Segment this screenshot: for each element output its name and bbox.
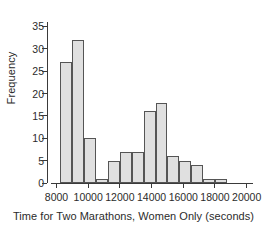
y-axis-tick-label: 15 bbox=[22, 111, 44, 121]
y-axis-tick-label: 35 bbox=[22, 21, 44, 31]
x-axis-tick bbox=[119, 183, 120, 188]
histogram-bar bbox=[60, 62, 72, 183]
y-axis-tick bbox=[42, 138, 47, 139]
histogram-bar bbox=[120, 152, 132, 183]
y-axis-tick bbox=[42, 93, 47, 94]
x-axis-tick bbox=[56, 183, 57, 188]
y-axis-tick bbox=[42, 160, 47, 161]
histogram-bar bbox=[132, 152, 144, 183]
histogram-bar bbox=[156, 103, 168, 184]
histogram-figure: Frequency 05101520253035 800010000120001… bbox=[0, 0, 267, 230]
y-axis-tick-label: 10 bbox=[22, 133, 44, 143]
histogram-bar bbox=[191, 165, 203, 183]
y-axis-tick bbox=[42, 48, 47, 49]
x-axis-tick bbox=[246, 183, 247, 188]
y-axis-tick bbox=[42, 26, 47, 27]
histogram-bar bbox=[96, 179, 108, 183]
histogram-bar bbox=[84, 138, 96, 183]
y-axis-tick-label: 25 bbox=[22, 66, 44, 76]
y-axis-tick-label: 30 bbox=[22, 44, 44, 54]
y-axis-tick bbox=[42, 115, 47, 116]
x-axis-tick-label: 20000 bbox=[225, 191, 267, 203]
x-axis-tick bbox=[183, 183, 184, 188]
histogram-bar bbox=[179, 161, 191, 183]
y-axis-tick-label: 5 bbox=[22, 156, 44, 166]
x-axis-tick bbox=[88, 183, 89, 188]
x-axis-tick bbox=[214, 183, 215, 188]
y-axis-tick bbox=[42, 183, 47, 184]
y-axis-tick-label: 20 bbox=[22, 89, 44, 99]
histogram-bar bbox=[108, 161, 120, 183]
histogram-bar bbox=[203, 179, 215, 183]
histogram-bar bbox=[72, 40, 84, 183]
x-axis-tick bbox=[151, 183, 152, 188]
histogram-bar bbox=[144, 111, 156, 183]
y-axis-tick bbox=[42, 71, 47, 72]
x-axis-label: Time for Two Marathons, Women Only (seco… bbox=[0, 210, 267, 222]
y-axis-line bbox=[47, 22, 48, 183]
histogram-bar bbox=[215, 179, 227, 183]
y-axis-tick-label: 0 bbox=[22, 178, 44, 188]
histogram-bar bbox=[167, 156, 179, 183]
